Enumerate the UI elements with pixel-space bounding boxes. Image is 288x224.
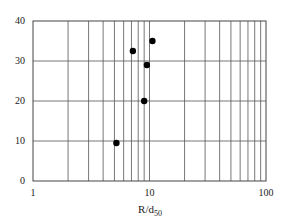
scatter-chart: 010203040 110100 R/d50 — [0, 0, 288, 224]
y-tick-label: 20 — [15, 95, 25, 106]
y-tick-label: 40 — [15, 15, 25, 26]
x-axis-tick-labels: 110100 — [31, 187, 274, 198]
y-axis-tick-labels: 010203040 — [15, 15, 25, 186]
data-point-marker — [113, 140, 119, 146]
grid-lines — [33, 21, 266, 181]
data-point-marker — [130, 48, 136, 54]
x-tick-label: 100 — [259, 187, 274, 198]
data-point-marker — [144, 62, 150, 68]
data-point-marker — [141, 98, 147, 104]
y-tick-label: 0 — [20, 175, 25, 186]
data-point-marker — [149, 38, 155, 44]
y-tick-label: 10 — [15, 135, 25, 146]
x-axis-label: R/d50 — [138, 203, 162, 218]
x-tick-label: 10 — [145, 187, 155, 198]
y-tick-label: 30 — [15, 55, 25, 66]
x-tick-label: 1 — [31, 187, 36, 198]
